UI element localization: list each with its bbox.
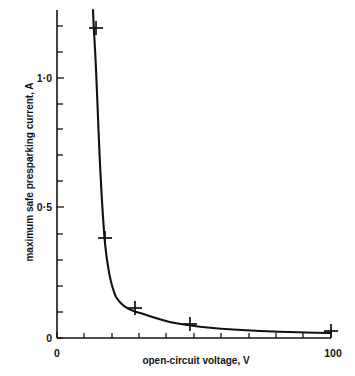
data-point-marker: [98, 231, 112, 245]
y-axis-ticks: [57, 26, 64, 338]
y-tick-label-1-0: 1·0: [37, 72, 52, 84]
x-axis-title: open-circuit voltage, V: [142, 355, 250, 366]
data-curve: [93, 10, 331, 333]
data-point-marker: [89, 21, 103, 35]
y-tick-label-0-5: 0·5: [37, 201, 52, 213]
data-point-marker: [324, 324, 338, 338]
data-point-markers: [89, 21, 338, 338]
data-point-marker: [183, 317, 197, 331]
page-bottom-edge: [0, 368, 355, 376]
y-axis-title: maximum safe presparking current, A: [24, 82, 35, 261]
x-tick-label-100: 100: [324, 347, 342, 359]
x-tick-label-0: 0: [54, 347, 60, 359]
presparking-current-chart: 1·0 0·5 0 0 100 open-circuit voltage, V …: [0, 0, 355, 376]
chart-figure: 1·0 0·5 0 0 100 open-circuit voltage, V …: [0, 0, 355, 376]
y-tick-label-0: 0: [46, 332, 52, 344]
